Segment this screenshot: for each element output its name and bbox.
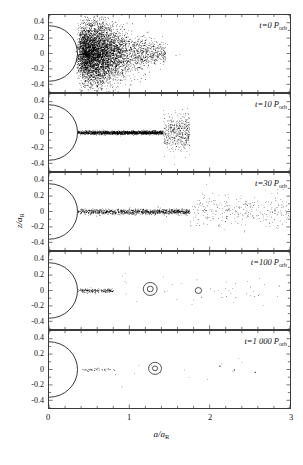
particle-cloud: [77, 184, 289, 232]
panel-time-subscript-0: orb: [279, 25, 287, 31]
y-tick-label-p3-3: 0.2: [22, 271, 44, 279]
planet-arc: [49, 342, 78, 397]
y-tick-label-p3-4: 0.4: [22, 255, 44, 263]
x-axis-title-subscript: R: [165, 433, 169, 440]
ringed-body-outer-ring-1: [195, 288, 201, 294]
planet-arc: [49, 105, 78, 160]
y-axis-title-text: z/a: [14, 217, 24, 228]
planet-arc: [49, 263, 78, 318]
y-tick-label-p2-1: -0.2: [22, 223, 44, 231]
y-tick-label-p0-4: 0.4: [22, 18, 44, 26]
panel-time-subscript-1: orb: [279, 104, 287, 110]
particle-cloud: [78, 273, 290, 306]
y-axis-title: z/aR: [14, 213, 24, 228]
panel-time-label-2: t=30 Porb: [199, 179, 287, 188]
x-axis-title-text: a/a: [154, 429, 166, 439]
x-tick-label-0: 0: [40, 413, 56, 422]
y-tick-label-p4-2: 0: [22, 366, 44, 374]
ringed-body-outer-ring-0: [143, 282, 157, 295]
y-tick-label-p4-3: 0.2: [22, 350, 44, 358]
y-tick-label-p4-1: -0.2: [22, 381, 44, 389]
y-tick-label-p1-1: -0.2: [22, 144, 44, 152]
figure-scatter-panels: t=0 Porb-0.4-0.200.20.4t=10 Porb-0.4-0.2…: [0, 0, 303, 465]
y-tick-label-p3-2: 0: [22, 287, 44, 295]
panel-time-label-0: t=0 Porb: [199, 21, 287, 30]
panel-time-label-3: t=100 Porb: [199, 258, 287, 267]
isolated-particle-2: [255, 372, 256, 373]
panel-time-label-4: t=1 000 Porb: [199, 337, 287, 346]
y-tick-label-p2-3: 0.2: [22, 192, 44, 200]
panel-time-subscript-4: orb: [279, 341, 287, 347]
y-tick-label-p1-0: -0.4: [22, 160, 44, 168]
y-tick-label-p1-3: 0.2: [22, 113, 44, 121]
y-tick-label-p0-0: -0.4: [22, 81, 44, 89]
panel-time-subscript-3: orb: [279, 262, 287, 268]
isolated-particle-1: [234, 370, 235, 371]
y-tick-label-p2-2: 0: [22, 208, 44, 216]
y-tick-label-p0-1: -0.2: [22, 65, 44, 73]
y-tick-label-p2-0: -0.4: [22, 239, 44, 247]
y-axis-title-subscript: R: [18, 213, 25, 217]
x-axis-title: a/aR: [154, 429, 170, 439]
y-tick-label-p4-0: -0.4: [22, 397, 44, 405]
planet-arc: [49, 26, 78, 81]
y-tick-label-p3-1: -0.2: [22, 302, 44, 310]
y-tick-label-p2-4: 0.4: [22, 176, 44, 184]
planet-arc: [49, 184, 78, 239]
y-tick-label-p4-4: 0.4: [22, 334, 44, 342]
ringed-body-core-0: [147, 286, 153, 292]
y-tick-label-p1-4: 0.4: [22, 97, 44, 105]
y-tick-label-p3-0: -0.4: [22, 318, 44, 326]
y-tick-label-p0-3: 0.2: [22, 34, 44, 42]
x-tick-label-3: 3: [283, 413, 299, 422]
particle-cloud: [83, 358, 243, 387]
panel-time-label-1: t=10 Porb: [199, 100, 287, 109]
panel-time-text-1: t=10 P: [255, 99, 279, 109]
panel-time-subscript-2: orb: [279, 183, 287, 189]
ringed-body-core-0: [152, 366, 157, 371]
x-tick-label-1: 1: [121, 413, 137, 422]
panel-time-text-0: t=0 P: [259, 20, 279, 30]
x-tick-label-2: 2: [202, 413, 218, 422]
isolated-particle-0: [219, 366, 220, 367]
particle-cloud: [76, 15, 180, 92]
particle-cloud: [77, 108, 190, 164]
y-tick-label-p0-2: 0: [22, 50, 44, 58]
ringed-body-outer-ring-0: [149, 362, 162, 374]
panel-time-text-2: t=30 P: [255, 178, 279, 188]
panel-time-text-4: t=1 000 P: [244, 336, 279, 346]
y-tick-label-p1-2: 0: [22, 129, 44, 137]
panel-time-text-3: t=100 P: [251, 257, 279, 267]
